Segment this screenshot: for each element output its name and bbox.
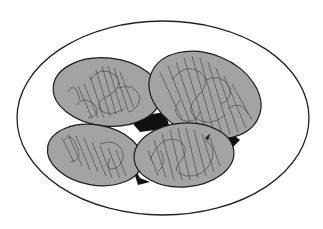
plate-illustration xyxy=(0,0,323,229)
illustration-canvas xyxy=(0,0,323,229)
